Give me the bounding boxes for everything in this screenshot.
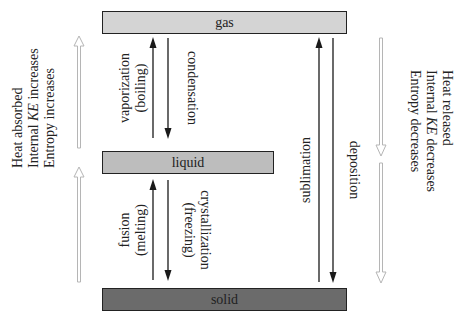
internal-ke-increases-text: Internal KE increases — [26, 18, 42, 168]
increases-suffix: increases — [26, 48, 41, 103]
condensation-text: condensation — [184, 38, 200, 138]
internal-prefix: Internal — [424, 70, 439, 117]
ke-italic: KE — [26, 103, 41, 121]
entropy-decreases-text: Entropy decreases — [407, 70, 423, 220]
heat-released-annotation: Heat released Internal KE decreases Entr… — [407, 70, 455, 220]
crystallization-arrow-icon — [165, 180, 172, 281]
vaporization-text: vaporization — [117, 38, 133, 138]
sublimation-label: sublimation — [298, 105, 314, 235]
freezing-text: (freezing) — [181, 180, 197, 280]
crystallization-label: crystallization (freezing) — [181, 180, 213, 280]
vaporization-label: vaporization (boiling) — [117, 38, 149, 138]
heat-absorbed-text: Heat absorbed — [10, 18, 26, 168]
condensation-arrow-icon — [165, 38, 172, 139]
heat-released-text: Heat released — [439, 70, 455, 220]
internal-prefix: Internal — [26, 121, 41, 168]
condensation-label: condensation — [184, 38, 200, 138]
heat-absorbed-hollow-arrow-icon — [74, 36, 84, 282]
internal-ke-decreases-text: Internal KE decreases — [423, 70, 439, 220]
fusion-arrow-icon — [150, 179, 157, 280]
heat-absorbed-annotation: Heat absorbed Internal KE increases Entr… — [10, 18, 58, 168]
vaporization-arrow-icon — [150, 37, 157, 138]
crystallization-text: crystallization — [197, 180, 213, 280]
deposition-text: deposition — [346, 110, 362, 230]
decreases-suffix: decreases — [424, 135, 439, 192]
entropy-increases-text: Entropy increases — [42, 18, 58, 168]
sublimation-text: sublimation — [298, 105, 314, 235]
fusion-label: fusion (melting) — [117, 180, 149, 280]
deposition-arrow-icon — [330, 38, 337, 283]
deposition-label: deposition — [346, 110, 362, 230]
boiling-text: (boiling) — [133, 38, 149, 138]
fusion-text: fusion — [117, 180, 133, 280]
ke-italic: KE — [424, 117, 439, 135]
melting-text: (melting) — [133, 180, 149, 280]
transition-arrows — [0, 0, 460, 326]
sublimation-arrow-icon — [316, 37, 323, 282]
heat-released-hollow-arrow-icon — [376, 38, 386, 283]
